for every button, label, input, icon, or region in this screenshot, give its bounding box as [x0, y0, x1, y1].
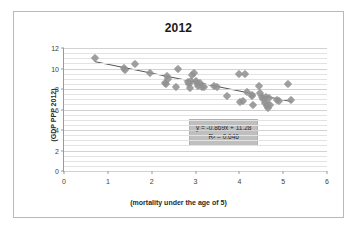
- x-tick-mark: [327, 171, 328, 174]
- y-tick-mark: [61, 109, 64, 110]
- y-tick-label: 12: [51, 45, 59, 52]
- data-point: [146, 69, 154, 77]
- x-axis-title: (mortality under the age of 5): [14, 199, 343, 206]
- gridline: [64, 110, 327, 111]
- data-point: [174, 64, 182, 72]
- data-point: [121, 65, 129, 73]
- trendline-equation-box: y = -0.869x + 11.28 R² = 0.646: [189, 119, 259, 146]
- x-tick-label: 1: [106, 178, 110, 185]
- x-tick-label: 4: [237, 178, 241, 185]
- x-tick-label: 3: [194, 178, 198, 185]
- gridline: [64, 120, 327, 121]
- y-tick-label: 10: [51, 65, 59, 72]
- gridline: [64, 58, 327, 59]
- data-point: [90, 53, 98, 61]
- x-tick-label: 5: [281, 178, 285, 185]
- plot-area: y = -0.869x + 11.28 R² = 0.646 024681012…: [63, 48, 327, 172]
- y-tick-mark: [61, 89, 64, 90]
- gridline: [64, 63, 327, 64]
- y-tick-mark: [61, 48, 64, 49]
- gridline: [64, 115, 327, 116]
- gridline: [64, 130, 327, 131]
- y-tick-mark: [61, 150, 64, 151]
- gridline: [64, 166, 327, 167]
- x-tick-mark: [283, 171, 284, 174]
- x-tick-label: 6: [325, 178, 329, 185]
- y-tick-mark: [61, 68, 64, 69]
- y-tick-label: 8: [55, 86, 59, 93]
- gridline: [64, 89, 327, 90]
- gridline: [64, 104, 327, 105]
- gridline: [64, 145, 327, 146]
- x-tick-mark: [64, 171, 65, 174]
- chart-frame: 2012 (GDP PPP 2012) y = -0.869x + 11.28 …: [13, 11, 344, 218]
- x-tick-mark: [151, 171, 152, 174]
- x-tick-label: 2: [150, 178, 154, 185]
- y-tick-label: 6: [55, 106, 59, 113]
- x-tick-mark: [239, 171, 240, 174]
- gridline: [64, 48, 327, 49]
- data-point: [249, 101, 257, 109]
- data-point: [131, 60, 139, 68]
- x-tick-label: 0: [62, 178, 66, 185]
- gridline: [64, 94, 327, 95]
- chart-title: 2012: [14, 21, 343, 35]
- gridline: [64, 156, 327, 157]
- data-point: [287, 96, 295, 104]
- gridline: [64, 135, 327, 136]
- y-tick-label: 0: [55, 168, 59, 175]
- gridline: [64, 140, 327, 141]
- data-point: [240, 70, 248, 78]
- data-point: [283, 80, 291, 88]
- x-tick-mark: [195, 171, 196, 174]
- gridline: [64, 53, 327, 54]
- y-tick-label: 2: [55, 147, 59, 154]
- x-tick-mark: [107, 171, 108, 174]
- gridline: [64, 125, 327, 126]
- y-tick-mark: [61, 130, 64, 131]
- y-tick-label: 4: [55, 127, 59, 134]
- gridline: [64, 151, 327, 152]
- gridline: [64, 161, 327, 162]
